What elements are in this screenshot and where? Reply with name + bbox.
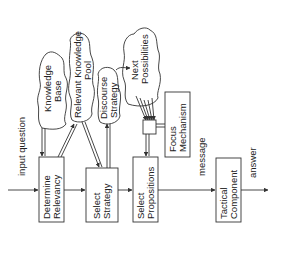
box-label-line2: Component <box>228 170 239 219</box>
box-label-line2: Propositions <box>145 166 156 219</box>
junction-box <box>143 120 156 134</box>
cloud-knowledge-base: Knowledge Base <box>38 52 68 129</box>
box-focus-mechanism: Focus Mechanism <box>165 92 190 157</box>
cloud-label-line2: Possibilities <box>139 34 150 84</box>
answer-label: answer <box>247 147 258 178</box>
diagram-canvas: input question message answer Determine … <box>0 0 282 259</box>
connector-strategy-to-discourse <box>107 124 110 168</box>
connector-relevancy-to-pool <box>58 124 77 157</box>
input-question-label: input question <box>16 117 27 176</box>
message-label: message <box>196 137 207 176</box>
connector-next-fan <box>136 96 154 120</box>
box-label-line2: Relevancy <box>51 174 62 219</box>
cloud-next-possibilities: Next Possibilities <box>123 28 161 106</box>
box-select-strategy: Select Strategy <box>86 168 118 222</box>
cloud-label-line2: Base <box>52 80 63 102</box>
box-select-propositions: Select Propositions <box>133 157 158 222</box>
connector-junction-to-propositions <box>146 134 149 156</box>
connector-pool-to-strategy <box>82 122 102 167</box>
connector-kb-to-relevancy <box>42 128 45 156</box>
connector-focus-to-junction <box>156 124 165 127</box>
cloud-label-line2: Pool <box>82 61 93 80</box>
cloud-relevant-knowledge-pool: Relevant Knowledge Pool <box>69 31 95 122</box>
box-label-line2: Strategy <box>101 183 112 219</box>
cloud-discourse-strategy: Discourse Strategy <box>97 67 120 124</box>
cloud-label-line2: Strategy <box>108 82 119 118</box>
box-tactical-component: Tactical Component <box>216 158 241 222</box>
box-determine-relevancy: Determine Relevancy <box>39 157 64 222</box>
box-label-line2: Mechanism <box>177 103 188 152</box>
